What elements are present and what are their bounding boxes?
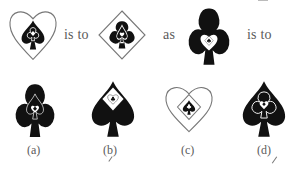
option-c-label[interactable]: (c) — [181, 143, 194, 158]
question-figure-1 — [8, 6, 58, 64]
option-b-label[interactable]: (b) — [103, 143, 117, 158]
option-c-figure[interactable] — [164, 82, 214, 136]
option-d-label[interactable]: (d) — [257, 143, 271, 158]
connector-is-to-2: is to — [247, 27, 272, 43]
question-figure-3 — [186, 6, 232, 66]
option-d-figure[interactable] — [240, 80, 288, 138]
connector-as: as — [163, 27, 175, 43]
question-figure-2 — [97, 10, 147, 60]
option-a-label[interactable]: (a) — [27, 143, 40, 158]
option-a-figure[interactable] — [13, 82, 57, 138]
club-solid-icon — [189, 8, 230, 64]
pencil-mark — [272, 156, 277, 163]
scan-mark — [258, 0, 268, 1]
connector-is-to-1: is to — [64, 27, 89, 43]
option-b-figure[interactable] — [89, 80, 137, 138]
